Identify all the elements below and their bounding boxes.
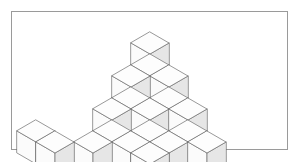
figure-root: Isometric cube stack Line drawing of a s… (0, 0, 300, 162)
isometric-cube-stack-drawing (0, 0, 300, 162)
cube-group (17, 32, 226, 162)
